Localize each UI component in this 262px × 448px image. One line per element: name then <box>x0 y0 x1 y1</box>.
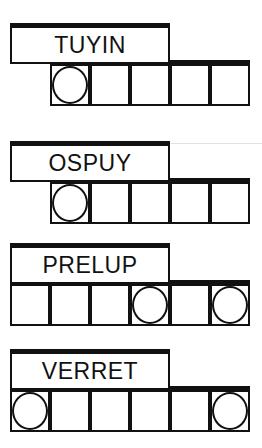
scrambled-word: TUYIN <box>54 34 126 57</box>
answer-cell[interactable] <box>170 284 210 326</box>
circled-letter-marker-icon <box>52 66 88 104</box>
scrambled-word-box: TUYIN <box>10 23 170 64</box>
answer-cell[interactable] <box>210 390 250 432</box>
answer-cell[interactable] <box>50 390 90 432</box>
jumble-puzzle-1: TUYIN <box>10 23 250 109</box>
answer-cell[interactable] <box>170 390 210 432</box>
answer-cells <box>10 284 250 326</box>
answer-cell[interactable] <box>50 182 90 224</box>
answer-cell[interactable] <box>50 284 90 326</box>
answer-cell[interactable] <box>90 390 130 432</box>
answer-cell[interactable] <box>210 284 250 326</box>
scrambled-word: VERRET <box>42 360 138 383</box>
answer-cell[interactable] <box>170 64 210 106</box>
answer-cells <box>10 182 250 224</box>
jumble-puzzle-4: VERRET <box>10 349 250 435</box>
circled-letter-marker-icon <box>212 286 248 324</box>
answer-cells <box>10 390 250 432</box>
jumble-puzzle-3: PRELUP <box>10 243 250 329</box>
circled-letter-marker-icon <box>132 286 168 324</box>
answer-cell[interactable] <box>170 182 210 224</box>
answer-cell[interactable] <box>130 182 170 224</box>
answer-cell[interactable] <box>130 284 170 326</box>
circled-letter-marker-icon <box>212 392 248 430</box>
answer-cell[interactable] <box>10 390 50 432</box>
answer-cell[interactable] <box>210 64 250 106</box>
scrambled-word-box: OSPUY <box>10 141 170 182</box>
scrambled-word: PRELUP <box>42 254 137 277</box>
answer-cell[interactable] <box>90 284 130 326</box>
answer-cell[interactable] <box>90 64 130 106</box>
answer-cell[interactable] <box>50 64 90 106</box>
circled-letter-marker-icon <box>52 184 88 222</box>
circled-letter-marker-icon <box>12 392 48 430</box>
scrambled-word: OSPUY <box>48 152 131 175</box>
jumble-puzzle-2: OSPUY <box>10 141 250 227</box>
answer-cell[interactable] <box>130 64 170 106</box>
answer-cell[interactable] <box>90 182 130 224</box>
scrambled-word-box: PRELUP <box>10 243 170 284</box>
answer-cell[interactable] <box>10 284 50 326</box>
scrambled-word-box: VERRET <box>10 349 170 390</box>
answer-cell[interactable] <box>130 390 170 432</box>
answer-cells <box>10 64 250 106</box>
answer-cell[interactable] <box>210 182 250 224</box>
